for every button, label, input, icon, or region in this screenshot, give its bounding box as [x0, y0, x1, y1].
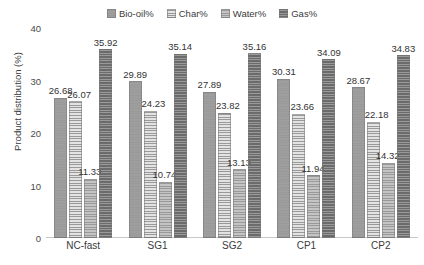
legend-swatch-icon	[221, 9, 230, 18]
bar[interactable]	[174, 54, 187, 238]
bar-column: 27.89	[203, 92, 216, 238]
bar-value-label: 30.31	[272, 67, 296, 77]
bar-column: 35.16	[248, 53, 261, 238]
bar-group-bars: 26.6826.0711.3335.92	[46, 28, 120, 238]
bar[interactable]	[307, 175, 320, 238]
legend-label: Gas%	[291, 9, 317, 19]
bar-group: 26.6826.0711.3335.92NC-fast	[46, 28, 120, 238]
legend-entry-bio-oil[interactable]: Bio-oil%	[107, 9, 154, 19]
bar-column: 14.32	[382, 163, 395, 238]
bar-value-label: 29.89	[123, 70, 147, 80]
bar[interactable]	[277, 79, 290, 238]
y-axis-tick-label: 40	[30, 23, 41, 34]
legend-label: Char%	[179, 9, 208, 19]
bar-column: 11.33	[84, 179, 97, 238]
bar-value-label: 11.33	[78, 167, 101, 177]
x-axis-category-label: SG2	[195, 240, 269, 251]
bar-group: 29.8924.2310.7435.14SG1	[120, 28, 194, 238]
bar-group-bars: 27.8923.8213.1335.16	[195, 28, 269, 238]
bar-column: 22.18	[367, 122, 380, 238]
bar[interactable]	[292, 114, 305, 238]
bar-column: 35.92	[99, 49, 112, 238]
bar-column: 10.74	[159, 182, 172, 238]
bar-value-label: 23.82	[216, 101, 240, 111]
bar-value-label: 34.83	[391, 44, 415, 54]
chart-legend: Bio-oil%Char%Water%Gas%	[0, 9, 424, 19]
bar-value-label: 22.18	[365, 110, 389, 120]
bar-value-label: 27.89	[198, 80, 222, 90]
bar[interactable]	[382, 163, 395, 238]
bar-value-label: 35.14	[168, 42, 192, 52]
bar-value-label: 28.67	[346, 76, 370, 86]
bar[interactable]	[203, 92, 216, 238]
bar-value-label: 11.94	[301, 164, 324, 174]
y-axis-tick-label: 30	[30, 75, 41, 86]
bar-group: 28.6722.1814.3234.83CP2	[344, 28, 418, 238]
x-axis-category-label: NC-fast	[46, 240, 120, 251]
bar-value-label: 23.66	[290, 102, 314, 112]
bar[interactable]	[248, 53, 261, 238]
bar-column: 28.67	[352, 87, 365, 238]
bar-value-label: 35.92	[94, 38, 118, 48]
bar-value-label: 35.16	[243, 42, 267, 52]
y-axis-tick-label: 0	[36, 233, 41, 244]
y-axis-tick-label: 10	[30, 180, 41, 191]
legend-swatch-icon	[279, 9, 288, 18]
bar-column: 13.13	[233, 169, 246, 238]
bar-group: 30.3123.6611.9434.09CP1	[269, 28, 343, 238]
bar[interactable]	[352, 87, 365, 238]
legend-entry-char[interactable]: Char%	[167, 9, 208, 19]
bar-group-bars: 30.3123.6611.9434.09	[269, 28, 343, 238]
legend-label: Bio-oil%	[119, 9, 154, 19]
x-axis-category-label: CP2	[344, 240, 418, 251]
bar-chart: Bio-oil%Char%Water%Gas% Product distribu…	[0, 0, 424, 265]
bar-column: 35.14	[174, 54, 187, 238]
legend-entry-water[interactable]: Water%	[221, 9, 266, 19]
bar-column: 29.89	[129, 81, 142, 238]
bar-column: 26.68	[54, 98, 67, 238]
y-axis-title: Product distribution (%)	[12, 22, 23, 182]
bar-column: 23.66	[292, 114, 305, 238]
bar[interactable]	[99, 49, 112, 238]
bar[interactable]	[129, 81, 142, 238]
bar[interactable]	[159, 182, 172, 238]
bar-value-label: 34.09	[317, 48, 341, 58]
bar-group-bars: 28.6722.1814.3234.83	[344, 28, 418, 238]
bar[interactable]	[218, 113, 231, 238]
bar[interactable]	[84, 179, 97, 238]
y-axis-tick-label: 20	[30, 128, 41, 139]
bar-column: 30.31	[277, 79, 290, 238]
legend-entry-gas[interactable]: Gas%	[279, 9, 317, 19]
bar-group-bars: 29.8924.2310.7435.14	[120, 28, 194, 238]
bar[interactable]	[54, 98, 67, 238]
legend-swatch-icon	[107, 9, 116, 18]
bar-value-label: 24.23	[142, 99, 166, 109]
bar[interactable]	[397, 55, 410, 238]
bar-column: 23.82	[218, 113, 231, 238]
bar-column: 34.83	[397, 55, 410, 238]
legend-swatch-icon	[167, 9, 176, 18]
x-axis-category-label: SG1	[120, 240, 194, 251]
bar-group: 27.8923.8213.1335.16SG2	[195, 28, 269, 238]
legend-label: Water%	[233, 9, 266, 19]
bar-column: 34.09	[322, 59, 335, 238]
bar[interactable]	[233, 169, 246, 238]
x-axis-category-label: CP1	[269, 240, 343, 251]
bar-value-label: 26.07	[67, 90, 91, 100]
bar-column: 11.94	[307, 175, 320, 238]
bar[interactable]	[367, 122, 380, 238]
plot-area: 010203040 26.6826.0711.3335.92NC-fast29.…	[46, 28, 418, 238]
bar[interactable]	[322, 59, 335, 238]
